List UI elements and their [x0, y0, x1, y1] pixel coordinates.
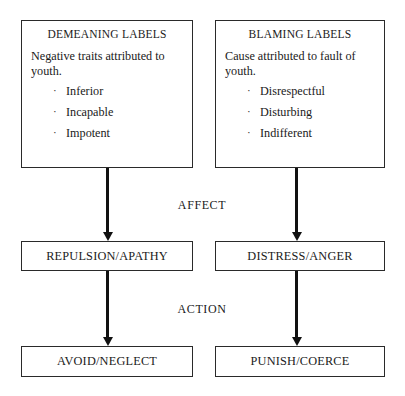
repulsion-apathy-label: REPULSION/APATHY	[46, 249, 168, 264]
list-item: · Indifferent	[247, 127, 375, 140]
bullet-dot-icon: ·	[53, 105, 57, 117]
flow-diagram: DEMEANING LABELS Negative traits attribu…	[0, 0, 405, 396]
bullet-dot-icon: ·	[53, 84, 57, 96]
arrow-head-icon	[292, 337, 302, 346]
blaming-labels-box: BLAMING LABELS Cause attributed to fault…	[215, 20, 385, 168]
demeaning-labels-title: DEMEANING LABELS	[31, 28, 183, 42]
action-stage-label: ACTION	[152, 302, 252, 317]
list-item-label: Indifferent	[260, 126, 312, 140]
list-item: · Disrespectful	[247, 85, 375, 98]
list-item-label: Disturbing	[260, 105, 312, 119]
avoid-neglect-box: AVOID/NEGLECT	[21, 346, 193, 377]
list-item: · Disturbing	[247, 106, 375, 119]
demeaning-labels-bullet-list: · Inferior · Incapable · Impotent	[31, 85, 183, 141]
list-item-label: Inferior	[66, 84, 103, 98]
affect-stage-label: AFFECT	[152, 198, 252, 213]
blaming-labels-bullet-list: · Disrespectful · Disturbing · Indiffere…	[225, 85, 375, 141]
blaming-labels-description: Cause attributed to fault of youth.	[225, 49, 375, 79]
punish-coerce-box: PUNISH/COERCE	[215, 346, 385, 377]
punish-coerce-label: PUNISH/COERCE	[251, 354, 350, 369]
repulsion-apathy-box: REPULSION/APATHY	[21, 241, 193, 271]
list-item-label: Impotent	[66, 126, 110, 140]
distress-anger-label: DISTRESS/ANGER	[247, 249, 352, 264]
arrow-head-icon	[292, 232, 302, 241]
bullet-dot-icon: ·	[53, 126, 57, 138]
bullet-dot-icon: ·	[247, 84, 251, 96]
arrow-stem	[295, 271, 298, 338]
blaming-labels-title: BLAMING LABELS	[225, 28, 375, 42]
demeaning-labels-description: Negative traits attributed to youth.	[31, 49, 183, 79]
list-item: · Inferior	[53, 85, 183, 98]
list-item-label: Incapable	[66, 105, 113, 119]
arrow-stem	[106, 168, 109, 233]
list-item-label: Disrespectful	[260, 84, 325, 98]
arrow-stem	[106, 271, 109, 338]
list-item: · Incapable	[53, 106, 183, 119]
arrow-stem	[295, 168, 298, 233]
arrow-head-icon	[103, 232, 113, 241]
avoid-neglect-label: AVOID/NEGLECT	[57, 354, 157, 369]
bullet-dot-icon: ·	[247, 126, 251, 138]
list-item: · Impotent	[53, 127, 183, 140]
arrow-head-icon	[103, 337, 113, 346]
bullet-dot-icon: ·	[247, 105, 251, 117]
distress-anger-box: DISTRESS/ANGER	[215, 241, 385, 271]
demeaning-labels-box: DEMEANING LABELS Negative traits attribu…	[21, 20, 193, 168]
